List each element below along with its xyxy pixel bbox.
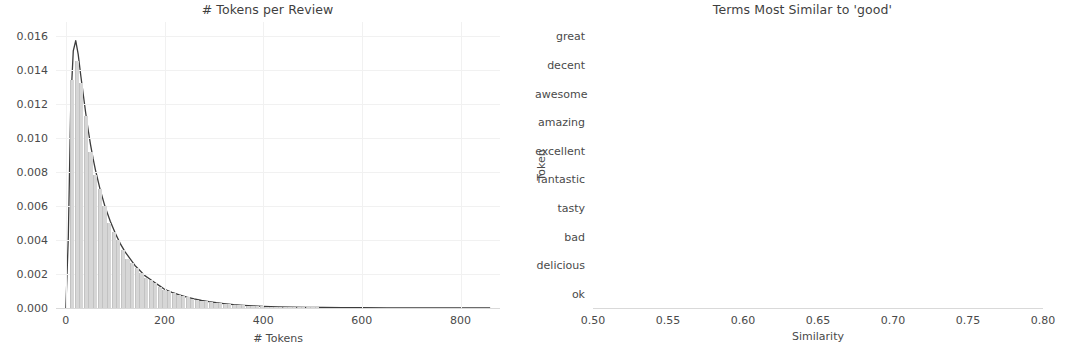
category-label-great: great <box>535 30 585 43</box>
category-label-bad: bad <box>535 230 585 243</box>
chart-title-tokens-per-review: # Tokens per Review <box>0 2 535 17</box>
x-tick-label: 800 <box>450 314 471 327</box>
grid-line-vertical <box>362 22 363 308</box>
y-tick-label: 0.012 <box>0 97 48 110</box>
x-tick-label: 400 <box>253 314 274 327</box>
x-tick-label: 200 <box>154 314 175 327</box>
x-axis-spine <box>56 308 500 309</box>
x-tick-label: 0 <box>62 314 69 327</box>
y-tick-label: 0.008 <box>0 165 48 178</box>
x-tick-label: 0.80 <box>1031 314 1056 327</box>
x-tick-label: 600 <box>351 314 372 327</box>
category-label-delicious: delicious <box>535 259 585 272</box>
grid-line-horizontal <box>56 138 500 139</box>
grid-line-vertical <box>461 22 462 308</box>
grid-line-horizontal <box>56 206 500 207</box>
x-axis-label-tokens: # Tokens <box>253 332 303 345</box>
x-axis-label-similarity: Similarity <box>792 330 844 343</box>
grid-line-horizontal <box>56 104 500 105</box>
x-tick-label: 0.60 <box>731 314 756 327</box>
category-label-ok: ok <box>535 287 585 300</box>
y-tick-label: 0.016 <box>0 29 48 42</box>
category-label-awesome: awesome <box>535 87 585 100</box>
y-tick-label: 0.004 <box>0 233 48 246</box>
category-label-amazing: amazing <box>535 116 585 129</box>
chart-panel-tokens-per-review: # Tokens per Review 0200400600800 0.0000… <box>0 0 535 348</box>
plot-area-histogram <box>56 22 500 308</box>
chart-panel-terms-similar: Terms Most Similar to 'good' greatdecent… <box>535 0 1070 348</box>
y-tick-label: 0.014 <box>0 63 48 76</box>
grid-line-vertical <box>263 22 264 308</box>
x-tick-label: 0.55 <box>656 314 681 327</box>
grid-line-horizontal <box>56 36 500 37</box>
y-tick-label: 0.006 <box>0 199 48 212</box>
x-tick-label: 0.70 <box>881 314 906 327</box>
y-tick-label: 0.000 <box>0 302 48 315</box>
grid-line-horizontal <box>56 172 500 173</box>
y-tick-label: 0.010 <box>0 131 48 144</box>
x-tick-label: 0.75 <box>956 314 981 327</box>
x-axis-spine <box>593 308 1043 309</box>
grid-line-vertical <box>165 22 166 308</box>
grid-line-horizontal <box>56 70 500 71</box>
grid-line-horizontal <box>56 240 500 241</box>
grid-line-vertical <box>66 22 67 308</box>
figure-canvas: # Tokens per Review 0200400600800 0.0000… <box>0 0 1070 348</box>
x-tick-label: 0.50 <box>581 314 606 327</box>
y-axis-label-token: Token <box>535 149 548 180</box>
category-label-decent: decent <box>535 58 585 71</box>
y-tick-label: 0.002 <box>0 267 48 280</box>
category-label-tasty: tasty <box>535 201 585 214</box>
x-tick-label: 0.65 <box>806 314 831 327</box>
chart-title-terms-similar: Terms Most Similar to 'good' <box>535 2 1070 17</box>
